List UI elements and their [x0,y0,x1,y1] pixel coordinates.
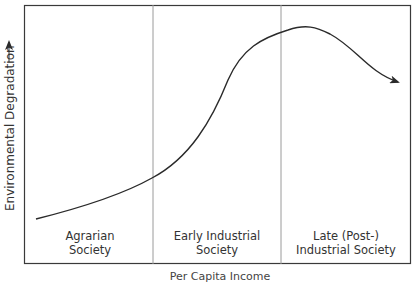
region-label-line: Society [158,243,276,257]
y-axis-label: Environmental Degradation [3,61,19,211]
region-label-early-industrial: Early Industrial Society [158,229,276,257]
region-label-line: Society [40,243,140,257]
plot-frame [25,6,411,264]
region-label-late-industrial: Late (Post-) Industrial Society [284,229,408,257]
region-label-agrarian: Agrarian Society [40,229,140,257]
region-label-line: Early Industrial [158,229,276,243]
degradation-curve [36,27,398,219]
region-label-line: Late (Post-) [284,229,408,243]
region-label-line: Industrial Society [284,243,408,257]
region-label-line: Agrarian [40,229,140,243]
x-axis-label: Per Capita Income [150,270,290,283]
